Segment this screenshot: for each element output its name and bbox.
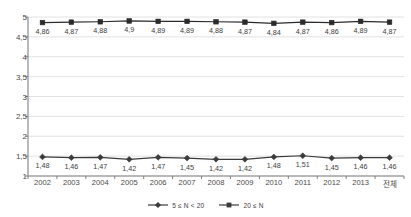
x-axis-label: 2002: [34, 178, 51, 187]
data-value-label: 4,86: [325, 27, 339, 36]
data-value-label: 4,87: [383, 27, 397, 36]
data-point-marker: [156, 19, 161, 24]
gridlines: [28, 17, 404, 176]
data-value-label: 1,48: [35, 161, 49, 170]
legend-item-1[interactable]: 20 ≤ N: [218, 200, 263, 210]
data-point-marker: [126, 156, 132, 162]
square-marker-icon: [218, 200, 240, 210]
y-axis-label: 3: [23, 92, 27, 101]
data-value-label: 1,45: [180, 163, 194, 172]
data-value-label: 4,87: [64, 27, 78, 36]
series-lines: [42, 21, 389, 159]
data-point-marker: [97, 154, 103, 160]
y-axis-label: 4: [23, 52, 27, 61]
data-point-marker: [271, 154, 277, 160]
data-value-label: 1,42: [122, 164, 136, 173]
data-value-label: 1,45: [325, 163, 339, 172]
data-value-label: 4,87: [296, 27, 310, 36]
data-point-marker: [300, 20, 305, 25]
data-point-marker: [213, 156, 219, 162]
x-axis-label: 2008: [208, 178, 225, 187]
y-axis-label: 4,5: [16, 32, 27, 41]
data-value-label: 1,46: [383, 162, 397, 171]
y-axis-label: 3,5: [16, 72, 27, 81]
data-point-marker: [98, 19, 103, 24]
data-value-label: 4,87: [238, 27, 252, 36]
y-axis-label: 1,5: [16, 152, 27, 161]
data-point-marker: [243, 20, 248, 25]
line-chart: 11,522,533,544,55 1,481,461,471,421,471,…: [0, 0, 411, 217]
x-axis-label: 2009: [236, 178, 253, 187]
data-value-label: 1,42: [238, 164, 252, 173]
data-point-marker: [214, 19, 219, 24]
x-axis-label: 2012: [323, 178, 340, 187]
x-axis-label: 2005: [121, 178, 138, 187]
x-axis-label: 전체: [383, 178, 397, 189]
plot-svg: [0, 0, 411, 195]
data-value-label: 4,9: [124, 25, 134, 34]
data-value-label: 1,47: [93, 162, 107, 171]
x-axis-label: 2011: [295, 178, 311, 187]
data-value-label: 1,46: [354, 162, 368, 171]
data-value-label: 4,84: [267, 28, 281, 37]
data-point-marker: [69, 20, 74, 25]
legend-label: 20 ≤ N: [243, 202, 263, 209]
x-axis-label: 2004: [92, 178, 109, 187]
y-axis-ticks: 11,522,533,544,55: [0, 0, 27, 195]
x-axis-ticks: 2002200320042005200620072008200920102011…: [0, 178, 411, 192]
data-value-label: 1,51: [296, 160, 310, 169]
diamond-marker-icon: [147, 200, 169, 210]
data-value-label: 4,89: [180, 26, 194, 35]
x-axis-label: 2003: [63, 178, 80, 187]
data-value-label: 4,86: [35, 27, 49, 36]
data-value-label: 4,88: [93, 26, 107, 35]
legend-label: 5 ≤ N < 20: [172, 202, 204, 209]
x-axis-label: 2010: [265, 178, 282, 187]
data-point-marker: [300, 153, 306, 159]
data-point-marker: [242, 156, 248, 162]
data-value-label: 1,48: [267, 161, 281, 170]
data-point-marker: [155, 154, 161, 160]
data-point-marker: [358, 19, 363, 24]
x-axis-label: 2006: [150, 178, 167, 187]
x-axis-label: 2013: [352, 178, 369, 187]
data-value-label: 1,46: [64, 162, 78, 171]
data-value-label: 4,89: [354, 26, 368, 35]
data-value-label: 1,42: [209, 164, 223, 173]
data-point-marker: [40, 154, 46, 160]
y-axis-label: 5: [23, 13, 27, 22]
data-value-label: 4,88: [209, 26, 223, 35]
series-markers: [40, 19, 393, 163]
plot-area: 11,522,533,544,55 1,481,461,471,421,471,…: [0, 0, 411, 195]
data-point-marker: [272, 21, 277, 26]
data-value-label: 4,89: [151, 26, 165, 35]
x-axis-label: 2007: [179, 178, 196, 187]
data-point-marker: [329, 20, 334, 25]
legend-item-0[interactable]: 5 ≤ N < 20: [147, 200, 204, 210]
data-point-marker: [40, 20, 45, 25]
data-value-label: 1,47: [151, 162, 165, 171]
data-point-marker: [387, 20, 392, 25]
chart-legend: 5 ≤ N < 2020 ≤ N: [0, 196, 411, 214]
y-axis-label: 2: [23, 132, 27, 141]
y-axis-label: 2,5: [16, 112, 27, 121]
data-point-marker: [127, 19, 132, 24]
data-point-marker: [185, 19, 190, 24]
